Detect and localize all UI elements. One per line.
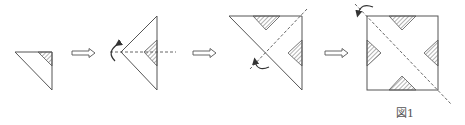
fold-arrow-icon (358, 6, 373, 14)
fold-arrow-icon (111, 44, 118, 61)
step-arrow-3 (325, 49, 348, 58)
step-arrow-2 (193, 49, 216, 58)
step-arrow-1 (72, 49, 95, 58)
step-1-triangle (15, 52, 52, 90)
step-2-triangle (110, 16, 176, 90)
figure-caption: 図1 (396, 104, 414, 120)
step-4-square (355, 4, 451, 104)
step-3-triangle (229, 9, 307, 90)
